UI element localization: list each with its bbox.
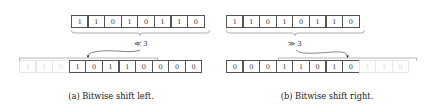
left-shift-arrow <box>88 50 140 57</box>
bit-cell: 0 <box>259 60 276 73</box>
bit-cell: 1 <box>326 15 343 28</box>
left-input-bit-array: 1 1 0 1 0 1 1 0 <box>71 15 205 28</box>
bit-cell: 0 <box>226 60 243 73</box>
bit-cell: 0 <box>243 60 260 73</box>
bit-cell: 1 <box>171 15 188 28</box>
left-arrow-head <box>87 56 90 59</box>
bit-cell: 0 <box>85 60 102 73</box>
bit-cell: 1 <box>309 15 326 28</box>
bit-cell: 1 <box>276 60 293 73</box>
right-arrow-head <box>346 56 349 59</box>
bit-cell: 1 <box>226 15 243 28</box>
bit-cell: 1 <box>276 15 293 28</box>
bit-cell: 0 <box>104 15 121 28</box>
shifted-out-bit-cell: 0 <box>392 60 409 73</box>
bit-cell: 1 <box>88 15 105 28</box>
bit-cell: 0 <box>152 60 169 73</box>
bit-cell: 1 <box>326 60 343 73</box>
right-input-bit-array: 1 1 0 1 0 1 1 0 <box>226 15 360 28</box>
bit-cell: 0 <box>342 60 359 73</box>
right-caption: (b) Bitwise shift right. <box>281 91 374 101</box>
bit-cell: 0 <box>259 15 276 28</box>
bit-cell: 1 <box>292 60 309 73</box>
left-output-bit-array: 1 1 0 1 0 1 1 0 0 0 0 <box>19 60 202 73</box>
bit-cell: 0 <box>185 60 202 73</box>
bit-cell: 1 <box>69 60 86 73</box>
right-input-brace <box>227 30 365 36</box>
bit-cell: 1 <box>71 15 88 28</box>
shifted-out-bit-cell: 0 <box>52 60 69 73</box>
shift-left-operator-label: ≪ 3 <box>134 40 148 48</box>
bit-cell: 1 <box>121 15 138 28</box>
bit-cell: 0 <box>168 60 185 73</box>
bit-cell: 1 <box>243 15 260 28</box>
left-caption: (a) Bitwise shift left. <box>68 91 154 101</box>
bit-cell: 0 <box>342 15 359 28</box>
bit-cell: 1 <box>102 60 119 73</box>
bit-cell: 0 <box>135 60 152 73</box>
right-shift-arrow <box>296 50 348 57</box>
bit-cell: 1 <box>154 15 171 28</box>
left-input-brace <box>72 30 210 36</box>
bit-cell: 0 <box>309 60 326 73</box>
shifted-out-bit-cell: 1 <box>36 60 53 73</box>
shift-right-operator-label: ≫ 3 <box>288 40 302 48</box>
bit-cell: 1 <box>119 60 136 73</box>
shifted-out-bit-cell: 1 <box>19 60 36 73</box>
bit-cell: 0 <box>292 15 309 28</box>
shifted-out-bit-cell: 1 <box>375 60 392 73</box>
bit-cell: 0 <box>137 15 154 28</box>
bit-cell: 0 <box>187 15 204 28</box>
shifted-out-bit-cell: 1 <box>359 60 376 73</box>
right-output-bit-array: 0 0 0 1 1 0 1 0 1 1 0 <box>226 60 409 73</box>
